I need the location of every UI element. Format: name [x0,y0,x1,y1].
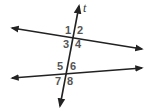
diagram-canvas: t 12345678 [0,0,147,110]
angle-label-6: 6 [70,60,76,72]
angle-label-2: 2 [77,24,83,36]
transversal-label: t [83,1,87,15]
angle-label-7: 7 [55,75,61,87]
bottom-parallel-line [12,68,142,78]
angle-label-3: 3 [63,38,69,50]
angle-label-5: 5 [57,60,63,72]
angle-label-1: 1 [65,24,71,36]
angle-label-4: 4 [75,38,82,50]
angle-label-8: 8 [67,75,73,87]
transversal-line [60,6,79,106]
diagram-container: t 12345678 [0,0,147,110]
